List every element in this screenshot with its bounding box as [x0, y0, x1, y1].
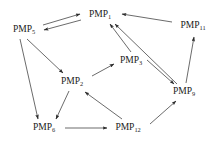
edge-pmp12-to-pmp2 — [85, 92, 122, 119]
node-pmp9-subscript: 9 — [192, 90, 195, 97]
node-pmp6-subscript: 6 — [52, 126, 55, 133]
node-pmp1-subscript: 1 — [108, 13, 111, 20]
edge-pmp2-to-pmp3 — [92, 64, 114, 76]
node-pmp12-base: PMP — [115, 122, 134, 132]
node-pmp6: PMP6 — [32, 123, 55, 133]
node-pmp6-base: PMP — [33, 122, 52, 132]
node-pmp5: PMP5 — [12, 25, 35, 35]
edge-pmp11-to-pmp1 — [122, 14, 172, 22]
node-pmp3: PMP3 — [119, 56, 142, 66]
edge-pmp5-to-pmp6 — [20, 39, 38, 119]
edge-pmp12-to-pmp9 — [150, 101, 176, 124]
node-pmp12-subscript: 12 — [134, 126, 140, 133]
node-pmp11: PMP11 — [180, 21, 206, 31]
node-pmp1: PMP1 — [88, 10, 111, 20]
edge-pmp3-to-pmp1 — [110, 24, 131, 52]
edge-pmp5-to-pmp1 — [43, 14, 80, 25]
node-pmp5-base: PMP — [13, 24, 32, 34]
edge-pmp9-to-pmp11 — [186, 37, 194, 83]
edge-pmp2-to-pmp6 — [56, 91, 69, 119]
node-pmp3-base: PMP — [120, 55, 139, 65]
node-pmp1-base: PMP — [89, 9, 108, 19]
node-pmp2-subscript: 2 — [80, 80, 83, 87]
node-pmp2: PMP2 — [60, 77, 83, 87]
node-pmp9-base: PMP — [173, 86, 192, 96]
node-pmp5-subscript: 5 — [32, 28, 35, 35]
node-pmp9: PMP9 — [172, 87, 195, 97]
edge-pmp1-to-pmp5 — [44, 20, 81, 30]
node-pmp11-base: PMP — [181, 20, 200, 30]
node-pmp3-subscript: 3 — [139, 59, 142, 66]
edge-pmp5-to-pmp2 — [27, 39, 63, 73]
edge-pmp3-to-pmp9 — [147, 60, 174, 84]
edge-pmp9-to-pmp1 — [115, 24, 177, 84]
pmp-dependency-graph: PMP5 PMP1 PMP11 PMP3 PMP2 PMP9 PMP6 PMP1… — [0, 0, 221, 144]
node-pmp11-subscript: 11 — [200, 24, 206, 31]
node-pmp2-base: PMP — [61, 76, 80, 86]
node-pmp12: PMP12 — [115, 123, 141, 133]
